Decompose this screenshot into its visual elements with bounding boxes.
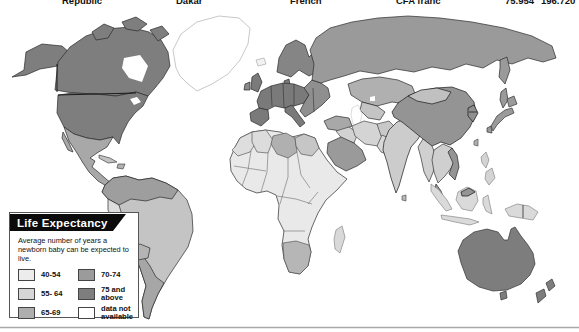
atlas-page: Republic Dakar French CFA franc 75.954 1… xyxy=(0,0,579,332)
legend-swatch-icon xyxy=(78,307,95,319)
legend-swatch-icon xyxy=(78,288,95,300)
region-sumatra xyxy=(431,184,452,211)
region-saudi-arabia xyxy=(327,137,366,171)
legend-item-label: 70-74 xyxy=(101,271,135,279)
legend-swatch-icon xyxy=(18,269,35,281)
life-expectancy-legend: Life Expectancy Average number of years … xyxy=(9,212,139,318)
legend-item-label: data not available xyxy=(101,305,135,320)
legend-item: 55- 64 xyxy=(18,285,78,302)
region-russia xyxy=(310,16,556,83)
region-iberia xyxy=(250,108,269,126)
region-sri-lanka xyxy=(402,195,406,201)
legend-item-label: 55- 64 xyxy=(41,290,75,298)
region-uk xyxy=(251,73,262,92)
legend-item: 65-69 xyxy=(18,304,78,321)
region-tasmania xyxy=(500,291,507,300)
legend-item-label: 65-69 xyxy=(41,309,75,317)
legend-item: 40-54 xyxy=(18,266,78,283)
region-australia xyxy=(458,227,535,291)
region-southern-africa xyxy=(283,241,311,274)
legend-swatch-icon xyxy=(18,307,35,319)
legend-items: 40-54 55- 64 65-69 70-74 75 and above da… xyxy=(18,266,136,321)
legend-item: data not available xyxy=(78,304,136,321)
legend-title-banner: Life Expectancy xyxy=(10,214,126,231)
region-taiwan xyxy=(474,139,478,146)
region-sakhalin xyxy=(500,88,508,108)
region-ireland xyxy=(244,82,250,90)
region-iceland xyxy=(256,58,266,66)
region-greenland xyxy=(173,16,250,91)
region-cuba xyxy=(99,155,117,163)
region-java xyxy=(441,215,479,225)
legend-title: Life Expectancy xyxy=(10,217,108,229)
legend-description: Average number of years a newborn baby c… xyxy=(18,236,132,263)
legend-swatch-icon xyxy=(78,269,95,281)
region-madagascar xyxy=(334,226,345,253)
region-sulawesi xyxy=(483,195,492,214)
region-hispaniola xyxy=(117,164,125,169)
legend-item: 75 and above xyxy=(78,285,136,302)
region-new-guinea xyxy=(505,204,538,220)
region-new-zealand xyxy=(536,279,555,303)
region-philippines xyxy=(481,152,495,185)
legend-swatch-icon xyxy=(18,288,35,300)
legend-item-label: 75 and above xyxy=(101,286,135,301)
legend-item-label: 40-54 xyxy=(41,271,75,279)
region-canada xyxy=(55,27,170,96)
legend-item: 70-74 xyxy=(78,266,136,283)
